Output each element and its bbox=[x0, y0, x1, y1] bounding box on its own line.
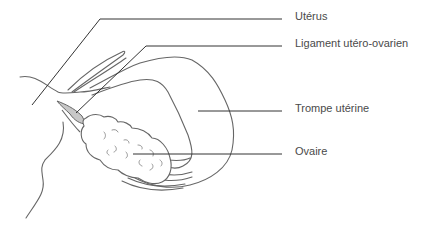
anatomy-drawing bbox=[0, 0, 437, 231]
label-trompe-uterine: Trompe utérine bbox=[295, 102, 369, 114]
ovarian-ligament bbox=[57, 101, 86, 124]
tube-upper-strand-2 bbox=[74, 58, 126, 92]
leader-line-uterus bbox=[32, 19, 282, 105]
uterus-lower-contour bbox=[26, 122, 64, 218]
label-uterus: Utérus bbox=[295, 10, 327, 22]
ovary-outline bbox=[81, 115, 171, 184]
label-ovaire: Ovaire bbox=[295, 145, 327, 157]
tube-fold-5 bbox=[168, 158, 190, 160]
label-ligament-utero-ovarien: Ligament utéro-ovarien bbox=[295, 37, 408, 49]
